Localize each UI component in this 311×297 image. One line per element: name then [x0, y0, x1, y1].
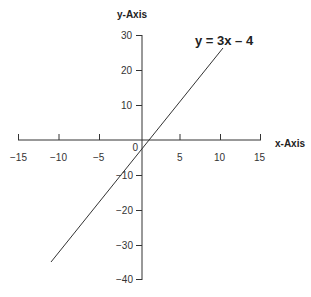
y-tick-label: −10 — [116, 170, 133, 181]
y-axis-ticks — [136, 36, 142, 280]
y-tick-label: 0 — [132, 142, 138, 153]
y-tick-label: −20 — [116, 205, 133, 216]
x-tick-label: 10 — [214, 152, 226, 163]
x-axis-title: x-Axis — [275, 138, 305, 149]
y-tick-label: −40 — [116, 274, 133, 285]
chart-canvas: y-Axis −15 −10 −5 5 10 15 x-Axis 30 20 1… — [0, 0, 311, 297]
x-tick-label: 15 — [254, 152, 266, 163]
x-tick-label: 5 — [177, 152, 183, 163]
y-tick-label: −30 — [116, 240, 133, 251]
x-tick-label: −15 — [10, 152, 27, 163]
series-line-y-3x-minus-4 — [51, 48, 223, 262]
x-tick-label: −5 — [93, 152, 105, 163]
y-tick-label: 30 — [121, 30, 133, 41]
x-tick-label: −10 — [50, 152, 67, 163]
x-axis-ticks — [19, 134, 261, 140]
y-tick-label: 20 — [121, 65, 133, 76]
equation-label: y = 3x – 4 — [195, 33, 254, 48]
y-axis-title: y-Axis — [117, 9, 147, 20]
y-tick-label: 10 — [121, 100, 133, 111]
